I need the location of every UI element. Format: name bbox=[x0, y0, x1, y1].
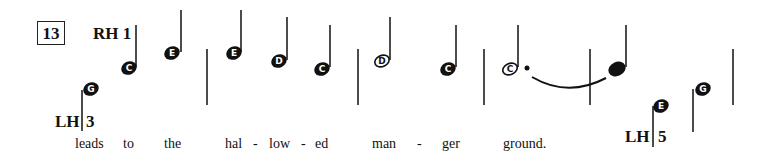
note-letter: C bbox=[126, 63, 133, 73]
note-letter: G bbox=[699, 84, 706, 94]
lyric: ed bbox=[315, 136, 328, 152]
lyric: man bbox=[372, 136, 396, 152]
tie bbox=[532, 77, 606, 88]
note-letter: C bbox=[319, 64, 326, 74]
note-letter: G bbox=[87, 84, 94, 94]
lyric: - bbox=[417, 136, 422, 152]
note-letter: E bbox=[658, 101, 664, 111]
lyric: low bbox=[269, 136, 290, 152]
note-letter: C bbox=[507, 64, 514, 74]
note-letter: E bbox=[169, 48, 175, 58]
note-letter: D bbox=[378, 56, 385, 66]
lyric: hal bbox=[225, 136, 242, 152]
lyric: - bbox=[253, 136, 258, 152]
lyric: ground. bbox=[503, 136, 546, 152]
augmentation-dot bbox=[525, 66, 530, 71]
lyric: - bbox=[301, 136, 306, 152]
note-letter: E bbox=[231, 48, 237, 58]
note-letter: C bbox=[445, 64, 452, 74]
lyric: the bbox=[164, 136, 181, 152]
lyric: to bbox=[123, 136, 134, 152]
notehead-tied bbox=[606, 59, 628, 79]
lyric: leads bbox=[75, 136, 104, 152]
note-letter: D bbox=[275, 56, 282, 66]
lyric: ger bbox=[442, 136, 460, 152]
